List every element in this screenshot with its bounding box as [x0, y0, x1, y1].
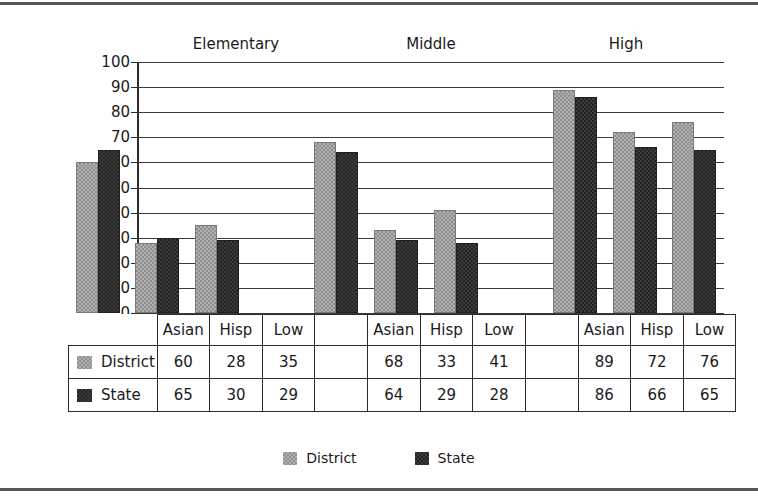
bar-state-elementary-asian [98, 150, 120, 313]
group-titles: Elementary Middle High [138, 34, 724, 56]
table-cell: 65 [683, 379, 736, 412]
y-tick-50 [131, 188, 138, 189]
bar-district-elementary-asian [76, 162, 98, 313]
bar-state-high-hisp [635, 147, 657, 313]
bar-district-high-hisp [613, 132, 635, 313]
table-row: State653029642928866665 [69, 379, 736, 412]
y-tick-30 [131, 238, 138, 239]
table-header-hisp-1: Hisp [210, 315, 263, 346]
y-tick-label-90: 90 [111, 80, 130, 94]
gridline-90 [138, 87, 724, 88]
bar-district-elementary-low [195, 225, 217, 313]
table-cell: 66 [631, 379, 684, 412]
table-cell: 29 [420, 379, 473, 412]
bar-state-high-asian [575, 97, 597, 313]
legend-label: State [438, 450, 475, 466]
y-tick-80 [131, 112, 138, 113]
table-cell-spacer [315, 346, 368, 379]
y-tick-label-100: 100 [101, 55, 130, 69]
table-cell: 68 [368, 346, 421, 379]
table-header-spacer-7 [525, 315, 578, 346]
table-row-label-district: District [69, 346, 158, 379]
table-cell: 65 [157, 379, 210, 412]
table-cell: 29 [262, 379, 315, 412]
y-tick-100 [131, 62, 138, 63]
legend-label: District [306, 450, 356, 466]
table-cell: 60 [157, 346, 210, 379]
table-cell: 64 [368, 379, 421, 412]
legend-swatch-state-icon [415, 452, 429, 465]
table-cell: 35 [262, 346, 315, 379]
table-cell: 30 [210, 379, 263, 412]
swatch-state-icon [77, 389, 92, 402]
y-tick-70 [131, 137, 138, 138]
y-tick-90 [131, 87, 138, 88]
chart-legend: DistrictState [0, 450, 758, 466]
bar-district-middle-low [434, 210, 456, 313]
table-row-label-state: State [69, 379, 158, 412]
bar-state-elementary-low [217, 240, 239, 313]
table-cell: 86 [578, 379, 631, 412]
table-cell-spacer [525, 346, 578, 379]
bar-state-middle-hisp [396, 240, 418, 313]
table-header-low-10: Low [683, 315, 736, 346]
table-cell-spacer [315, 379, 368, 412]
bar-district-middle-asian [314, 142, 336, 313]
bar-state-middle-low [456, 243, 478, 313]
bottom-rule [0, 488, 758, 491]
bar-state-middle-asian [336, 152, 358, 313]
table-header-hisp-5: Hisp [420, 315, 473, 346]
chart-page: Elementary Middle High 10090807060504030… [0, 0, 758, 501]
table-header-asian-0: Asian [157, 315, 210, 346]
series-label: State [101, 386, 141, 404]
gridline-70 [138, 137, 724, 138]
table-cell: 28 [473, 379, 526, 412]
table-header-low-2: Low [262, 315, 315, 346]
table-header-hisp-9: Hisp [631, 315, 684, 346]
bar-state-elementary-hisp [157, 238, 179, 313]
gridline-100 [138, 62, 724, 63]
table-header-spacer-3 [315, 315, 368, 346]
table-header-row: AsianHispLowAsianHispLowAsianHispLow [69, 315, 736, 346]
y-tick-60 [131, 162, 138, 163]
group-title-middle: Middle [333, 34, 529, 54]
table-header-low-6: Low [473, 315, 526, 346]
table-header-asian-4: Asian [368, 315, 421, 346]
bar-state-high-low [694, 150, 716, 313]
table-header-asian-8: Asian [578, 315, 631, 346]
legend-swatch-district-icon [283, 452, 297, 465]
bar-district-high-asian [553, 90, 575, 313]
y-tick-label-70: 70 [111, 130, 130, 144]
bar-district-elementary-hisp [135, 243, 157, 313]
swatch-district-icon [77, 356, 92, 369]
table-header-corner [69, 315, 158, 346]
y-tick-label-80: 80 [111, 105, 130, 119]
table-cell: 41 [473, 346, 526, 379]
bar-district-high-low [672, 122, 694, 313]
legend-item-district: District [283, 450, 356, 466]
table-cell: 76 [683, 346, 736, 379]
y-tick-40 [131, 213, 138, 214]
table-row: District602835683341897276 [69, 346, 736, 379]
table-cell: 72 [631, 346, 684, 379]
table-cell-spacer [525, 379, 578, 412]
table-cell: 33 [420, 346, 473, 379]
table-cell: 89 [578, 346, 631, 379]
group-title-high: High [528, 34, 724, 54]
plot-area [138, 62, 724, 313]
bar-district-middle-hisp [374, 230, 396, 313]
gridline-80 [138, 112, 724, 113]
table-body: AsianHispLowAsianHispLowAsianHispLowDist… [69, 315, 736, 412]
series-label: District [101, 353, 155, 371]
top-rule [0, 2, 758, 5]
table-cell: 28 [210, 346, 263, 379]
legend-item-state: State [415, 450, 475, 466]
group-title-elementary: Elementary [138, 34, 334, 54]
data-table: AsianHispLowAsianHispLowAsianHispLowDist… [68, 314, 736, 412]
